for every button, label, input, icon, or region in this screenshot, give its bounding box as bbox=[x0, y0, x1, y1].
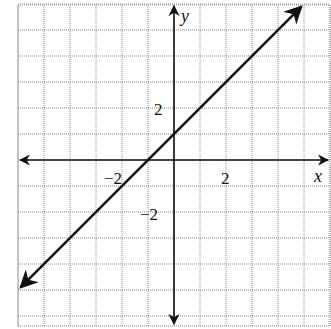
x-tick-label-2: 2 bbox=[221, 169, 230, 188]
x-tick-label-neg2: −2 bbox=[104, 169, 122, 188]
y-axis-label: y bbox=[179, 6, 189, 26]
line-y-equals-x-plus-1 bbox=[21, 7, 302, 288]
y-tick-label-neg2: −2 bbox=[140, 205, 158, 224]
x-axis-label: x bbox=[313, 166, 322, 186]
coordinate-plane: x y −2 2 2 −2 bbox=[0, 0, 331, 329]
y-tick-label-2: 2 bbox=[154, 100, 163, 119]
